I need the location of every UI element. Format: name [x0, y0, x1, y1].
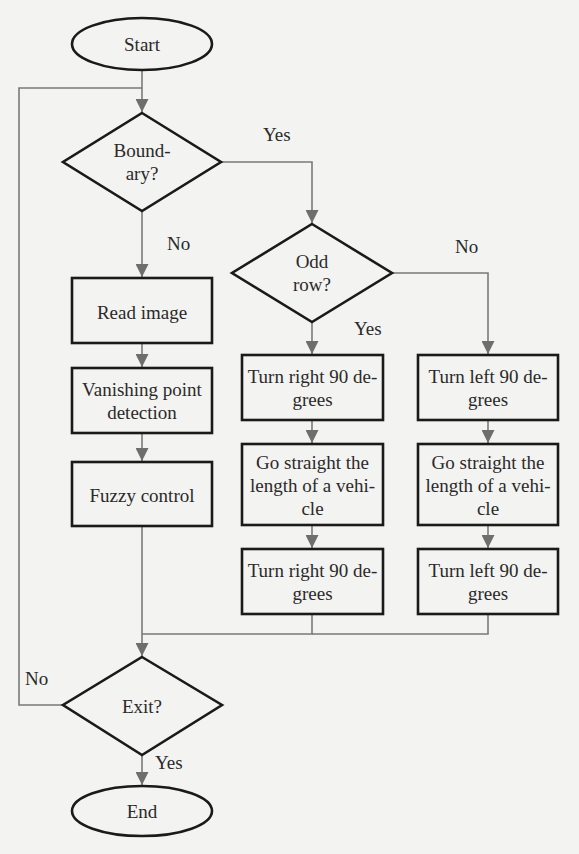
- turn-left-2-label: Turn left 90 de- grees: [418, 551, 558, 613]
- fuzzy-label: Fuzzy control: [72, 464, 212, 526]
- boundary-no-label: No: [167, 233, 190, 255]
- exit-no-label: No: [25, 668, 48, 690]
- exit-label: Exit?: [92, 690, 192, 722]
- turn-right-1-label: Turn right 90 de- grees: [242, 357, 383, 419]
- start-label: Start: [72, 18, 212, 70]
- connector-merge-exit: [142, 614, 312, 634]
- connector-merge-exit-right: [312, 614, 488, 634]
- read-image-label: Read image: [72, 280, 212, 344]
- connector-boundary-odd-row: [221, 162, 312, 223]
- odd-no-label: No: [455, 236, 478, 258]
- odd-yes-label: Yes: [354, 318, 382, 340]
- straight-left-label: Go straight the length of a vehi- cle: [418, 446, 558, 524]
- turn-left-1-label: Turn left 90 de- grees: [418, 357, 558, 419]
- odd-row-label: Odd row?: [262, 246, 362, 300]
- turn-right-2-label: Turn right 90 de- grees: [242, 551, 383, 613]
- boundary-label: Bound- ary?: [92, 135, 192, 189]
- end-label: End: [72, 786, 212, 836]
- connector-odd-turn-left: [392, 273, 488, 354]
- vanishing-label: Vanishing point detection: [72, 370, 212, 432]
- exit-yes-label: Yes: [155, 752, 183, 774]
- boundary-yes-label: Yes: [263, 124, 291, 146]
- straight-right-label: Go straight the length of a vehi- cle: [242, 446, 383, 524]
